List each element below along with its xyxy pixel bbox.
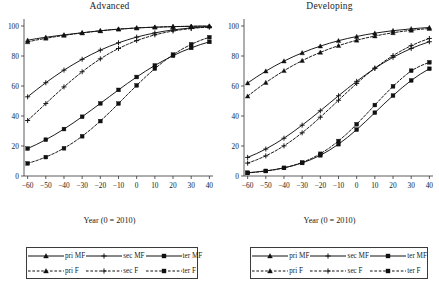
legend-label-ter-f: ter F — [407, 263, 427, 278]
panel-title-advanced: Advanced — [0, 1, 219, 11]
x-axis-label-advanced: Year (0 = 2010) — [0, 216, 219, 225]
svg-text:100: 100 — [228, 22, 239, 31]
legend-label-sec-mf: sec MF — [123, 248, 144, 263]
chart-svg-advanced: 020406080100−60−50−40−30−20−10010203040 — [0, 14, 219, 200]
svg-text:40: 40 — [206, 181, 214, 190]
legend-key-sec-f — [85, 263, 123, 278]
legend-key-pri-mf — [251, 248, 289, 263]
legend-label-pri-f: pri F — [65, 263, 85, 278]
legend-advanced: pri MF sec MF ter MF pri F sec F ter F — [26, 247, 198, 279]
svg-text:−60: −60 — [22, 181, 34, 190]
svg-text:10: 10 — [371, 181, 379, 190]
svg-text:20: 20 — [169, 181, 177, 190]
svg-text:−50: −50 — [40, 181, 52, 190]
plot-area-advanced: 020406080100−60−50−40−30−20−10010203040 — [0, 14, 219, 200]
svg-text:40: 40 — [426, 181, 434, 190]
svg-text:−20: −20 — [95, 181, 107, 190]
svg-text:−40: −40 — [278, 181, 290, 190]
legend-key-sec-mf — [85, 248, 123, 263]
legend-label-ter-mf: ter MF — [407, 248, 427, 263]
svg-text:40: 40 — [12, 112, 20, 121]
legend-key-ter-f — [145, 263, 183, 278]
legend-table: pri MF sec MF ter MF pri F sec F ter F — [251, 248, 427, 278]
svg-text:20: 20 — [12, 142, 20, 151]
panel-developing: Developing 020406080100−60−50−40−30−20−1… — [220, 0, 439, 235]
svg-text:−40: −40 — [58, 181, 70, 190]
svg-text:0: 0 — [355, 181, 359, 190]
legend-label-sec-f: sec F — [348, 263, 369, 278]
legend-label-ter-f: ter F — [183, 263, 203, 278]
svg-text:10: 10 — [151, 181, 159, 190]
svg-text:−30: −30 — [76, 181, 88, 190]
svg-text:−30: −30 — [296, 181, 308, 190]
svg-text:20: 20 — [389, 181, 397, 190]
svg-text:0: 0 — [135, 181, 139, 190]
legend-row: pri MF sec MF ter MF — [251, 248, 427, 263]
panel-advanced: Advanced 020406080100−60−50−40−30−20−100… — [0, 0, 219, 235]
svg-text:30: 30 — [407, 181, 415, 190]
svg-text:30: 30 — [187, 181, 195, 190]
svg-text:−20: −20 — [315, 181, 327, 190]
svg-text:40: 40 — [232, 112, 240, 121]
legend-key-sec-f — [309, 263, 347, 278]
legend-key-pri-f — [27, 263, 65, 278]
svg-text:0: 0 — [235, 172, 239, 181]
legend-label-pri-mf: pri MF — [289, 248, 309, 263]
legend-key-pri-mf — [27, 248, 65, 263]
x-axis-label-developing: Year (0 = 2010) — [220, 216, 439, 225]
plot-area-developing: 020406080100−60−50−40−30−20−10010203040 — [220, 14, 439, 200]
svg-text:60: 60 — [232, 82, 240, 91]
svg-text:−10: −10 — [113, 181, 125, 190]
svg-text:−10: −10 — [333, 181, 345, 190]
figure-root: Advanced 020406080100−60−50−40−30−20−100… — [0, 0, 439, 287]
legend-key-ter-mf — [369, 248, 407, 263]
legend-label-pri-mf: pri MF — [65, 248, 85, 263]
legend-developing: pri MF sec MF ter MF pri F sec F ter F — [250, 247, 428, 279]
legend-row: pri F sec F ter F — [251, 263, 427, 278]
svg-text:60: 60 — [12, 82, 20, 91]
legend-label-sec-mf: sec MF — [348, 248, 369, 263]
legend-key-ter-f — [369, 263, 407, 278]
legend-row: pri MF sec MF ter MF — [27, 248, 202, 263]
svg-text:100: 100 — [8, 22, 19, 31]
legend-key-ter-mf — [145, 248, 183, 263]
svg-text:0: 0 — [15, 172, 19, 181]
svg-text:80: 80 — [12, 52, 20, 61]
legend-key-pri-f — [251, 263, 289, 278]
legend-label-pri-f: pri F — [289, 263, 309, 278]
legend-label-sec-f: sec F — [123, 263, 144, 278]
legend-key-sec-mf — [309, 248, 347, 263]
svg-text:−50: −50 — [260, 181, 272, 190]
svg-text:−60: −60 — [242, 181, 254, 190]
panel-title-developing: Developing — [220, 1, 439, 11]
legend-label-ter-mf: ter MF — [183, 248, 203, 263]
svg-text:20: 20 — [232, 142, 240, 151]
legend-table: pri MF sec MF ter MF pri F sec F ter F — [27, 248, 202, 278]
chart-svg-developing: 020406080100−60−50−40−30−20−10010203040 — [220, 14, 439, 200]
svg-text:80: 80 — [232, 52, 240, 61]
legend-row: pri F sec F ter F — [27, 263, 202, 278]
